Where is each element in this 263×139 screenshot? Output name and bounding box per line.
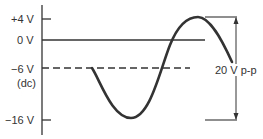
label-zero: 0 V bbox=[17, 34, 34, 46]
label-peak-to-peak: 20 V p-p bbox=[214, 64, 258, 76]
arrow-down-icon bbox=[234, 113, 239, 120]
arrow-up-icon bbox=[234, 17, 239, 24]
label-plus4: +4 V bbox=[11, 13, 34, 25]
label-minus6: −6 V bbox=[11, 63, 34, 75]
label-dc: (dc) bbox=[17, 77, 36, 89]
label-minus16: −16 V bbox=[5, 114, 34, 126]
